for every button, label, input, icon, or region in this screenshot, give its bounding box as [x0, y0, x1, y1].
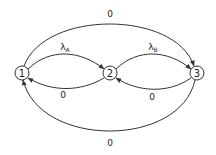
edge-1-to-2 [28, 54, 104, 69]
edge-3-to-2 [116, 78, 191, 89]
node-3-label: 3 [194, 68, 200, 79]
edge-label-3-to-2: 0 [149, 92, 155, 102]
node-1-label: 1 [19, 68, 25, 79]
node-3: 3 [190, 66, 204, 80]
edge-label-1-to-3: 0 [107, 9, 113, 19]
node-2: 2 [103, 66, 117, 80]
edge-label-3-to-1: 0 [107, 138, 113, 148]
edge-label-2-to-1: 0 [60, 90, 66, 100]
edge-2-to-3 [116, 54, 191, 69]
node-1: 1 [15, 66, 29, 80]
edge-label-1-to-2: λA [60, 42, 70, 53]
state-diagram: 0 0 0 0 λA λB 1 2 3 [0, 0, 216, 155]
edge-label-2-to-3: λB [148, 42, 157, 53]
node-2-label: 2 [107, 68, 113, 79]
edge-1-to-3-top [24, 24, 194, 66]
edge-2-to-1 [28, 78, 104, 89]
